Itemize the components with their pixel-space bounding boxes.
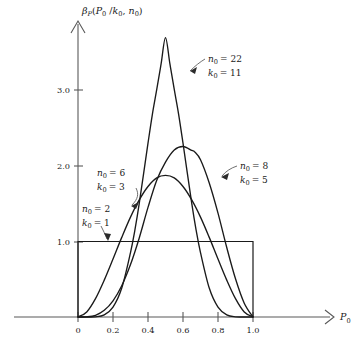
y-axis-title: βP(P0 /k0, n0) xyxy=(81,5,143,18)
annot-n2-sub: 0 xyxy=(88,208,92,216)
y-tick-label-3-0: 3.0 xyxy=(57,85,70,95)
leader-line-n6k3 xyxy=(132,188,138,205)
annot-n6-val: = 6 xyxy=(109,168,125,178)
leader-arrow-n8k5-icon xyxy=(221,173,229,180)
annot-n22k11-line2: k0= 11 xyxy=(208,68,242,80)
annot-n2-val: = 2 xyxy=(94,204,110,214)
annot-n8-val: = 8 xyxy=(252,161,268,171)
x-tick-label-0-4: 0.4 xyxy=(141,325,154,335)
svg-text:P0: P0 xyxy=(339,311,351,325)
x-tick-label-0-8: 0.8 xyxy=(211,325,224,335)
leader-arrow-n6k3-icon xyxy=(131,202,139,209)
x-tick-label-0-2: 0.2 xyxy=(106,325,119,335)
annotation-n0-22-k0-11: n0= 22 k0= 11 xyxy=(190,54,242,80)
x-title-sub: 0 xyxy=(346,317,350,325)
annot-n8-sub: 0 xyxy=(246,165,250,173)
annot-n22k11-line1: n0= 22 xyxy=(208,54,242,66)
annot-n8k5-line2: k0= 5 xyxy=(240,175,268,187)
x-axis-title: P0 xyxy=(339,311,351,325)
y-tick-label-1-0: 1.0 xyxy=(57,237,70,247)
leader-line-n22k11 xyxy=(190,59,205,71)
y-tick-label-2-0: 2.0 xyxy=(57,161,70,171)
annot-k3-sub: 0 xyxy=(102,186,106,194)
annot-n2k1-line1: n0= 2 xyxy=(82,204,110,216)
x-tick-label-1-0: 1.0 xyxy=(246,325,259,335)
annot-n6k3-line2: k0= 3 xyxy=(97,182,125,194)
annot-k5-val: = 5 xyxy=(252,175,268,185)
annot-k5-sub: 0 xyxy=(245,179,249,187)
annot-n22k11-sub: 0 xyxy=(214,58,218,66)
annotation-n0-2-k0-1: n0= 2 k0= 1 xyxy=(82,204,111,241)
y-tick-group: 1.0 2.0 3.0 xyxy=(57,85,83,247)
annot-n22k11-val: = 22 xyxy=(220,54,242,64)
annot-k1-sub: 0 xyxy=(87,222,91,230)
annot-n8k5-line1: n0= 8 xyxy=(240,161,268,173)
annot-n6-sub: 0 xyxy=(103,172,107,180)
leader-arrow-n2k1-icon xyxy=(104,233,111,241)
x-tick-label-0-6: 0.6 xyxy=(176,325,189,335)
y-title-close: ) xyxy=(139,5,143,16)
annot-k3-val: = 3 xyxy=(109,182,125,192)
beta-distribution-figure: 0 0.2 0.4 0.6 0.8 1.0 1.0 2.0 3.0 βP(P0 … xyxy=(0,0,359,341)
annot-k11-sub: 0 xyxy=(213,72,217,80)
annot-k1-val: = 1 xyxy=(94,218,110,228)
axis-group xyxy=(14,21,334,324)
svg-text:βP(P0 /k0, n0): βP(P0 /k0, n0) xyxy=(81,5,143,18)
chart-canvas: 0 0.2 0.4 0.6 0.8 1.0 1.0 2.0 3.0 βP(P0 … xyxy=(0,0,359,341)
annot-n6k3-line1: n0= 6 xyxy=(97,168,125,180)
annotation-n0-6-k0-3: n0= 6 k0= 3 xyxy=(97,168,139,209)
annotation-n0-8-k0-5: n0= 8 k0= 5 xyxy=(221,161,268,187)
x-tick-label-0: 0 xyxy=(75,325,80,335)
leader-line-n8k5 xyxy=(222,166,237,176)
annot-n2k1-line2: k0= 1 xyxy=(82,218,110,230)
annot-k11-val: = 11 xyxy=(220,68,242,78)
